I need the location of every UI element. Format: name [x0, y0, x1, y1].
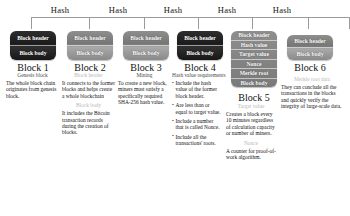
description-bullet-item: Include the hash value of the former blo… — [172, 80, 222, 99]
description-bullet-list: Include the hash value of the former blo… — [172, 80, 222, 147]
block-row-target-value: Target value — [231, 50, 277, 59]
block-5: Block headerHash valueTarget valueNonceM… — [231, 31, 277, 87]
chain-connector-6 — [308, 17, 350, 29]
hash-label-1: Hash — [39, 5, 81, 15]
chain-connector-1 — [31, 17, 90, 29]
description-paragraph: The whole block chain originates from ge… — [6, 80, 59, 99]
hash-label-3: Hash — [152, 5, 194, 15]
hash-label-2: Hash — [97, 5, 139, 15]
hash-label-4: Hash — [206, 5, 248, 15]
block-1: Block headerBlock body — [10, 31, 56, 60]
block-row-block-body: Block body — [177, 46, 223, 60]
chain-connector-4 — [198, 17, 253, 29]
description-heading: Merkle root data — [281, 76, 343, 83]
block-description-1: Genesis blockThe whole block chain origi… — [6, 72, 59, 102]
description-heading: Mining — [118, 72, 171, 79]
hash-label-5: Hash — [261, 5, 303, 15]
block-row-block-header: Block header — [123, 31, 169, 45]
block-row-block-body: Block body — [231, 79, 277, 88]
block-row-hash-value: Hash value — [231, 41, 277, 50]
description-paragraph: They can conclude all the transactions i… — [281, 84, 343, 110]
description-heading: Genesis block — [6, 72, 59, 79]
block-row-block-header: Block header — [231, 31, 277, 40]
description-paragraph: Creates a block every 10 minutes regardl… — [226, 111, 276, 137]
description-heading: Nonce — [226, 140, 276, 147]
block-description-2: Block headerIt connects to the former bl… — [62, 72, 115, 139]
block-description-6: Merkle root dataThey can conclude all th… — [281, 76, 343, 113]
block-caption-6: Block 6 — [287, 62, 333, 73]
chain-connector-5 — [252, 17, 309, 29]
block-row-block-body: Block body — [287, 48, 333, 60]
description-paragraph: It connects to the former blocks and hel… — [62, 80, 115, 99]
block-row-nonce: Nonce — [231, 60, 277, 69]
description-bullet-item: Are less than or equal to target value. — [172, 102, 222, 115]
block-caption-5: Block 5 — [231, 92, 277, 103]
description-bullet-item: Include a number that is called Nonce. — [172, 118, 222, 131]
block-4: Block headerBlock body — [177, 31, 223, 60]
description-heading: Block header — [62, 72, 115, 79]
block-3: Block headerBlock body — [123, 31, 169, 60]
block-2: Block headerBlock body — [67, 31, 113, 60]
description-heading: Hash value requirements — [172, 72, 222, 79]
chain-connector-2 — [89, 17, 145, 29]
block-description-4: Hash value requirementsInclude the hash … — [172, 72, 222, 150]
block-row-block-header: Block header — [67, 31, 113, 45]
block-description-3: MiningTo create a new block, miners must… — [118, 72, 171, 109]
block-row-block-body: Block body — [10, 46, 56, 60]
description-heading: Block body — [62, 102, 115, 109]
block-row-block-header: Block header — [10, 31, 56, 45]
description-paragraph: To create a new block, miners must satis… — [118, 80, 171, 106]
block-row-merkle-root: Merkle root — [231, 69, 277, 78]
block-row-block-header: Block header — [177, 31, 223, 45]
block-description-5: Target valueCreates a block every 10 min… — [226, 103, 276, 163]
block-row-block-body: Block body — [123, 46, 169, 60]
description-heading: Target value — [226, 103, 276, 110]
block-row-block-body: Block body — [67, 46, 113, 60]
block-6: Block headerBlock body — [287, 35, 333, 60]
block-row-block-header: Block header — [287, 35, 333, 47]
description-paragraph: It includes the Bitcoin transaction reco… — [62, 110, 115, 136]
description-bullet-item: Include all the transactions' roots. — [172, 134, 222, 147]
chain-connector-3 — [144, 17, 199, 29]
description-paragraph: A counter for proof-of-work algorithm. — [226, 148, 276, 161]
